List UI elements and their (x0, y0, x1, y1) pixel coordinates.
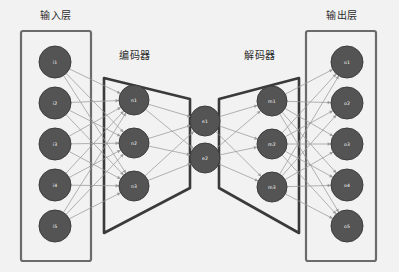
edge-i1-n3 (64, 75, 126, 173)
node-label-o1: o1 (344, 60, 350, 65)
autoencoder-diagram: i1i2i3i4i5n1n2n3e1e2m1m2m3o1o2o3o4o5 输入层… (0, 0, 399, 272)
node-label-o5: o5 (344, 224, 350, 229)
edge-i5-n1 (63, 113, 126, 213)
node-e1[interactable]: e1 (190, 106, 220, 136)
node-m2[interactable]: m2 (257, 129, 287, 159)
edge-m3-o5 (285, 194, 332, 219)
node-label-n2: n2 (131, 141, 137, 146)
arrowhead-m2-o3 (328, 142, 331, 145)
edge-i5-n3 (69, 193, 120, 219)
edge-n2-e1 (148, 125, 190, 138)
node-o5[interactable]: o5 (331, 210, 363, 242)
node-label-i4: i4 (53, 183, 58, 188)
arrowhead-i3-n2 (116, 142, 119, 145)
node-label-o4: o4 (344, 183, 350, 188)
edge-n3-e2 (148, 164, 191, 181)
output-layer-title: 输出层 (310, 10, 374, 22)
node-o2[interactable]: o2 (331, 87, 363, 119)
node-label-i3: i3 (53, 142, 58, 147)
node-label-n1: n1 (131, 98, 137, 103)
node-label-e1: e1 (202, 119, 208, 124)
network-canvas: i1i2i3i4i5n1n2n3e1e2m1m2m3o1o2o3o4o5 (0, 0, 399, 272)
node-label-m1: m1 (268, 99, 276, 104)
edge-e2-m3 (219, 164, 258, 181)
arrowhead-m3-o4 (328, 184, 331, 187)
encoder-title: 编码器 (107, 50, 163, 62)
node-m1[interactable]: m1 (257, 86, 287, 116)
edge-m1-o2 (287, 101, 331, 102)
edge-m3-o1 (280, 76, 339, 174)
node-label-i2: i2 (53, 101, 58, 106)
node-label-e2: e2 (202, 156, 208, 161)
edge-i3-n2 (71, 143, 119, 144)
node-label-o2: o2 (344, 101, 350, 106)
node-o3[interactable]: o3 (331, 128, 363, 160)
node-label-o3: o3 (344, 142, 350, 147)
edge-e1-m1 (219, 105, 257, 116)
edge-e1-m2 (219, 126, 258, 139)
node-e2[interactable]: e2 (190, 143, 220, 173)
node-label-m3: m3 (268, 185, 276, 190)
node-label-i5: i5 (53, 224, 58, 229)
node-n1[interactable]: n1 (119, 85, 149, 115)
edge-i4-n3 (71, 185, 119, 186)
node-i4[interactable]: i4 (39, 169, 71, 201)
edge-m3-o4 (287, 185, 331, 186)
arrowhead-i2-n1 (116, 99, 119, 102)
node-i2[interactable]: i2 (39, 87, 71, 119)
node-m3[interactable]: m3 (257, 172, 287, 202)
edge-n3-e1 (145, 131, 194, 176)
node-label-i1: i1 (53, 60, 58, 65)
edge-m1-o1 (285, 69, 332, 94)
node-label-m2: m2 (268, 142, 276, 147)
node-n3[interactable]: n3 (119, 171, 149, 201)
node-i1[interactable]: i1 (39, 46, 71, 78)
edge-n1-e1 (148, 104, 190, 116)
node-i3[interactable]: i3 (39, 128, 71, 160)
node-n2[interactable]: n2 (119, 128, 149, 158)
node-o1[interactable]: o1 (331, 46, 363, 78)
edge-i2-n1 (71, 101, 119, 103)
edge-e2-m1 (216, 111, 260, 149)
arrowhead-m1-o2 (328, 101, 331, 104)
edge-m1-o5 (280, 114, 339, 212)
node-i5[interactable]: i5 (39, 210, 71, 242)
arrowhead-e1-m2 (254, 136, 258, 139)
input-layer-title: 输入层 (24, 10, 88, 22)
arrowhead-i4-n3 (116, 184, 119, 187)
node-o4[interactable]: o4 (331, 169, 363, 201)
node-label-n3: n3 (131, 184, 137, 189)
decoder-title: 解码器 (232, 50, 288, 62)
